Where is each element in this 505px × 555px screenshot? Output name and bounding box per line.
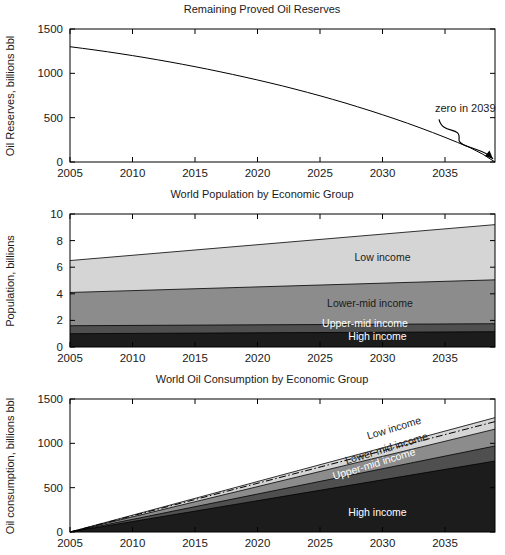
consumption-plot-area: 2005201020152020202520302035050010001500…	[37, 393, 495, 549]
series-label-low-income: Low income	[354, 251, 410, 263]
chart-panel-reserves: Remaining Proved Oil Reserves Oil Reserv…	[0, 0, 505, 185]
x-tick-label: 2010	[120, 167, 146, 179]
x-tick-label: 2035	[432, 167, 458, 179]
x-tick-label: 2020	[245, 352, 271, 364]
x-tick-label: 2020	[245, 537, 271, 549]
x-tick-label: 2030	[370, 167, 396, 179]
population-svg: World Population by Economic Group Popul…	[0, 185, 505, 370]
population-plot-area: 20052010201520202025203020350246810Low i…	[50, 208, 495, 364]
reserves-svg: Remaining Proved Oil Reserves Oil Reserv…	[0, 0, 505, 185]
x-tick-label: 2015	[182, 352, 208, 364]
x-tick-label: 2030	[370, 352, 396, 364]
y-tick-label: 10	[50, 208, 63, 220]
x-tick-label: 2025	[307, 537, 333, 549]
y-tick-label: 1500	[37, 23, 63, 35]
x-tick-label: 2025	[307, 352, 333, 364]
y-tick-label: 1500	[37, 393, 63, 405]
y-tick-label: 500	[44, 112, 63, 124]
x-tick-label: 2035	[432, 537, 458, 549]
reserves-data-line	[70, 47, 495, 162]
x-tick-label: 2025	[307, 167, 333, 179]
x-tick-label: 2015	[182, 167, 208, 179]
y-tick-label: 0	[57, 156, 63, 168]
y-tick-label: 0	[57, 526, 63, 538]
y-tick-label: 0	[57, 341, 63, 353]
reserves-annotation-arrow	[439, 119, 493, 159]
y-tick-label: 8	[57, 235, 63, 247]
x-tick-label: 2030	[370, 537, 396, 549]
y-tick-label: 1000	[37, 67, 63, 79]
x-tick-label: 2015	[182, 537, 208, 549]
y-tick-label: 1000	[37, 437, 63, 449]
x-tick-label: 2010	[120, 352, 146, 364]
reserves-chart-title: Remaining Proved Oil Reserves	[184, 3, 341, 15]
y-tick-label: 4	[57, 288, 64, 300]
x-tick-label: 2010	[120, 537, 146, 549]
area-band-high-income	[70, 332, 495, 347]
x-tick-label: 2005	[57, 167, 83, 179]
reserves-annotation-label: zero in 2039	[435, 102, 496, 114]
x-tick-label: 2005	[57, 537, 83, 549]
y-tick-label: 2	[57, 314, 63, 326]
series-label-lower-mid-income: Lower-mid income	[327, 297, 413, 309]
consumption-svg: World Oil Consumption by Economic Group …	[0, 370, 505, 555]
y-tick-label: 6	[57, 261, 63, 273]
figure-three-stacked-charts: Remaining Proved Oil Reserves Oil Reserv…	[0, 0, 505, 555]
y-tick-label: 500	[44, 482, 63, 494]
x-tick-label: 2005	[57, 352, 83, 364]
chart-panel-population: World Population by Economic Group Popul…	[0, 185, 505, 370]
x-tick-label: 2020	[245, 167, 271, 179]
chart-panel-consumption: World Oil Consumption by Economic Group …	[0, 370, 505, 555]
consumption-y-axis-label: Oil consumption, billions bbl	[4, 398, 16, 534]
plot-frame	[70, 29, 495, 162]
consumption-chart-title: World Oil Consumption by Economic Group	[156, 373, 369, 385]
reserves-plot-area: 2005201020152020202520302035050010001500…	[37, 23, 495, 179]
reserves-y-axis-label: Oil Reserves, billions bbl	[4, 36, 16, 156]
series-label-high-income: High income	[348, 506, 407, 518]
series-label-upper-mid-income: Upper-mid income	[322, 317, 408, 329]
population-y-axis-label: Population, billions	[4, 235, 16, 327]
population-chart-title: World Population by Economic Group	[170, 188, 353, 200]
series-label-high-income: High income	[348, 330, 407, 342]
x-tick-label: 2035	[432, 352, 458, 364]
